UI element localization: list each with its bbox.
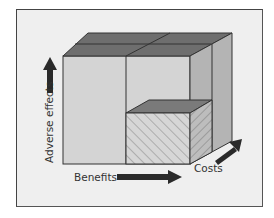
x-axis-label: Benefits: [74, 171, 117, 183]
highlighted-subcube: [126, 100, 212, 164]
benefits-arrow: [117, 170, 182, 184]
cube-diagram: Adverse effects Benefits Costs: [0, 0, 274, 218]
y-axis-label: Adverse effects: [43, 82, 55, 163]
z-axis-label: Costs: [194, 162, 223, 174]
